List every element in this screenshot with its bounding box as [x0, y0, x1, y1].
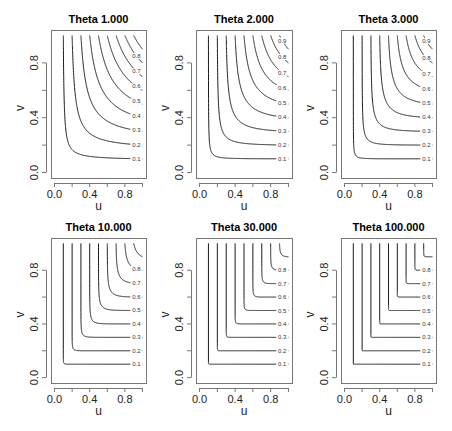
contour-line [406, 243, 432, 283]
y-tick-label: 0.8 [173, 263, 185, 278]
contour-level-label: 0.6 [422, 86, 431, 92]
contour-level-label: 0.5 [422, 308, 431, 314]
contour-line [134, 243, 143, 256]
contour-line [389, 35, 433, 104]
contour-level-label: 0.2 [278, 348, 287, 354]
y-axis-label: v [303, 105, 317, 111]
x-tick-label: 0.8 [117, 393, 132, 405]
contour-panel: Theta 3.0000.00.40.8u0.00.40.8v0.10.20.3… [303, 13, 437, 213]
y-tick-label: 0.0 [28, 370, 40, 385]
x-axis-label: u [385, 199, 392, 213]
contour-level-label: 0.7 [132, 68, 141, 74]
contour-level-label: 0.1 [132, 361, 141, 367]
y-axis-label: v [303, 312, 317, 318]
y-tick-label: 0.0 [28, 165, 40, 180]
contour-line [389, 243, 433, 310]
contour-line [63, 243, 142, 364]
panel-title: Theta 3.000 [359, 13, 419, 25]
contour-level-label: 0.2 [132, 348, 141, 354]
y-tick-label: 0.4 [173, 316, 185, 331]
contour-level-label: 0.3 [278, 334, 287, 340]
contour-panel: Theta 100.0000.00.40.8u0.00.40.8v0.10.20… [303, 221, 437, 418]
x-tick-label: 0.0 [47, 188, 62, 200]
contour-line [134, 35, 143, 49]
y-tick-label: 0.8 [173, 55, 185, 70]
contour-level-label: 0.4 [132, 321, 141, 327]
x-tick-label: 0.0 [337, 393, 352, 405]
copula-contour-figure: Theta 1.0000.00.40.8u0.00.40.8v0.10.20.3… [0, 0, 452, 431]
contour-line [244, 243, 288, 310]
x-tick-label: 0.0 [192, 393, 207, 405]
y-tick-label: 0.4 [173, 110, 185, 125]
contour-level-label: 0.4 [278, 321, 287, 327]
y-axis-label: v [158, 105, 172, 111]
x-axis-label: u [241, 199, 248, 213]
contour-panel: Theta 1.0000.00.40.8u0.00.40.8v0.10.20.3… [13, 13, 147, 213]
contour-level-label: 0.3 [422, 334, 431, 340]
contour-level-label: 0.2 [132, 142, 141, 148]
contour-level-label: 0.6 [278, 85, 287, 91]
contour-level-label: 0.8 [422, 267, 431, 273]
contour-line [353, 243, 432, 364]
y-tick-label: 0.4 [318, 110, 330, 125]
contour-panel: Theta 2.0000.00.40.8u0.00.40.8v0.10.20.3… [158, 13, 293, 213]
y-tick-label: 0.4 [28, 110, 40, 125]
x-tick-label: 0.8 [407, 188, 422, 200]
panel-title: Theta 10.000 [65, 221, 131, 233]
contour-panel: Theta 30.0000.00.40.8u0.00.40.8v0.10.20.… [158, 221, 293, 418]
contour-level-label: 0.5 [422, 100, 431, 106]
x-tick-label: 0.0 [192, 188, 207, 200]
contour-level-label: 0.4 [422, 114, 431, 120]
contour-level-label: 0.7 [278, 70, 287, 76]
contour-level-label: 0.8 [132, 266, 141, 272]
y-tick-label: 0.0 [318, 370, 330, 385]
contour-level-label: 0.1 [278, 156, 287, 162]
y-tick-label: 0.4 [318, 316, 330, 331]
contour-level-label: 0.6 [278, 294, 287, 300]
contour-level-label: 0.6 [132, 83, 141, 89]
contour-level-label: 0.5 [278, 100, 287, 106]
x-tick-label: 0.8 [117, 188, 132, 200]
x-tick-label: 0.0 [337, 188, 352, 200]
contour-level-label: 0.6 [132, 294, 141, 300]
panel-title: Theta 30.000 [211, 221, 277, 233]
contour-level-label: 0.9 [422, 38, 431, 44]
contour-line [262, 243, 289, 283]
contour-level-label: 0.1 [132, 156, 141, 162]
contour-level-label: 0.4 [422, 321, 431, 327]
x-tick-label: 0.8 [263, 188, 278, 200]
x-axis-label: u [95, 404, 102, 418]
contour-level-label: 0.7 [278, 281, 287, 287]
contour-level-label: 0.3 [422, 128, 431, 134]
contour-line [107, 35, 142, 90]
contour-line [424, 243, 433, 256]
x-tick-label: 0.8 [263, 393, 278, 405]
contour-level-label: 0.7 [422, 71, 431, 77]
contour-line [353, 35, 432, 158]
x-tick-label: 0.0 [47, 393, 62, 405]
contour-level-label: 0.8 [278, 267, 287, 273]
contour-level-label: 0.4 [132, 113, 141, 119]
contour-level-label: 0.7 [132, 280, 141, 286]
contour-level-label: 0.5 [132, 98, 141, 104]
contour-level-label: 0.5 [278, 308, 287, 314]
y-axis-label: v [13, 312, 27, 318]
x-tick-label: 0.8 [407, 393, 422, 405]
contour-level-label: 0.2 [422, 348, 431, 354]
y-tick-label: 0.0 [173, 370, 185, 385]
panel-title: Theta 1.000 [69, 13, 129, 25]
contour-level-label: 0.9 [278, 38, 287, 44]
y-tick-label: 0.0 [318, 165, 330, 180]
panel-title: Theta 100.000 [352, 221, 424, 233]
contour-level-label: 0.1 [278, 361, 287, 367]
contour-level-label: 0.8 [422, 55, 431, 61]
contour-level-label: 0.7 [422, 281, 431, 287]
contour-level-label: 0.1 [422, 156, 431, 162]
contour-level-label: 0.8 [132, 53, 141, 59]
contour-level-label: 0.2 [422, 142, 431, 148]
y-tick-label: 0.0 [173, 165, 185, 180]
x-axis-label: u [241, 404, 248, 418]
contour-line [253, 35, 289, 90]
contour-panel: Theta 10.0000.00.40.8u0.00.40.8v0.10.20.… [13, 221, 147, 418]
y-tick-label: 0.4 [28, 316, 40, 331]
